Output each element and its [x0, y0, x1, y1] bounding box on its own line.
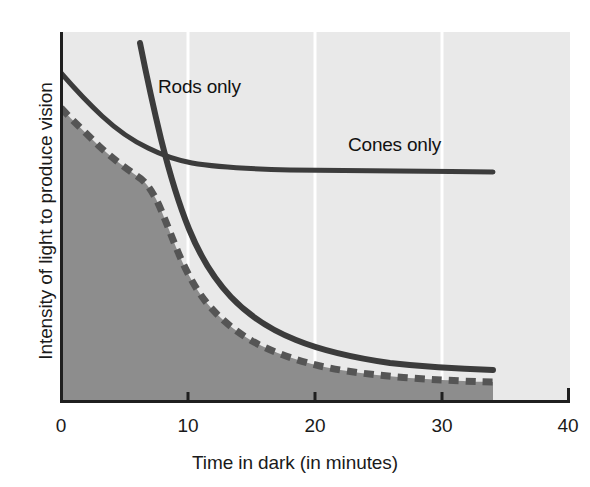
series-label-rods-only: Rods only: [158, 76, 241, 98]
series-label-cones-only: Cones only: [348, 134, 441, 156]
x-tick-label-10: 10: [158, 415, 218, 437]
dark-adaptation-chart: Intensity of light to produce vision Tim…: [0, 0, 590, 487]
x-axis-title: Time in dark (in minutes): [0, 452, 590, 474]
x-tick-label-20: 20: [285, 415, 345, 437]
x-tick-label-40: 40: [538, 415, 590, 437]
chart-plot-area: [0, 0, 590, 487]
x-tick-label-30: 30: [412, 415, 472, 437]
y-axis-title: Intensity of light to produce vision: [35, 51, 57, 391]
x-tick-label-0: 0: [31, 415, 91, 437]
